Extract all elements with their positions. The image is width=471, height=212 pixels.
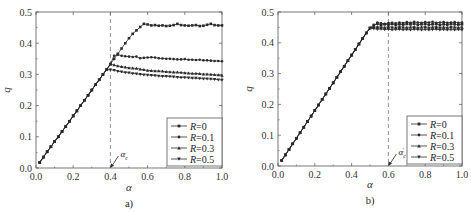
data-point (120, 54, 123, 57)
panel-label: a) (125, 198, 134, 210)
y-tick-label: 0.5 (262, 7, 275, 18)
data-point (180, 58, 183, 61)
data-point (380, 22, 383, 25)
legend-label: R=0.3 (189, 143, 214, 154)
legend-label-var: R (429, 141, 436, 152)
x-tick-label: 0.2 (67, 171, 80, 182)
data-point (431, 21, 434, 24)
x-tick-label: 0.6 (382, 169, 395, 180)
data-point (184, 24, 187, 27)
data-point (157, 57, 160, 60)
panel-label: b) (366, 195, 375, 207)
annotation-arrow (390, 154, 397, 164)
annotation-subscript: c (125, 155, 128, 161)
data-point (402, 22, 405, 25)
data-point (172, 24, 175, 27)
data-point (165, 58, 168, 61)
y-tick-label: 0.3 (262, 68, 275, 79)
data-point (187, 58, 190, 61)
data-point (424, 21, 427, 24)
data-point (198, 58, 201, 61)
data-point (376, 21, 379, 24)
data-point (428, 21, 431, 24)
data-point (139, 26, 142, 29)
data-point (169, 58, 172, 61)
x-tick-label: 0.4 (345, 169, 358, 180)
data-point (131, 33, 134, 36)
data-point (431, 23, 434, 26)
data-point (120, 47, 123, 50)
data-point (217, 60, 220, 63)
data-point (124, 42, 127, 45)
annotation-subscript: c (403, 153, 406, 159)
legend-label-value: =0 (436, 119, 447, 130)
legend-label: R=0 (189, 121, 207, 132)
data-point (157, 24, 160, 27)
data-point (135, 55, 138, 58)
legend-label: R=0.3 (429, 141, 454, 152)
legend-label-var: R (429, 119, 436, 130)
data-point (391, 21, 394, 24)
chart-panel-a: 0.00.20.40.60.81.00.00.10.20.30.40.5αqa)… (0, 7, 228, 211)
x-axis-label: α (367, 178, 373, 190)
data-point (154, 56, 157, 59)
legend: R=0R=0.1R=0.3R=0.5 (167, 118, 222, 166)
data-point (217, 24, 220, 27)
data-point (202, 59, 205, 62)
data-point (169, 24, 172, 27)
legend-marker-icon (178, 125, 181, 128)
data-point (446, 21, 449, 24)
data-point (409, 21, 412, 24)
data-point (406, 21, 409, 24)
data-point (435, 21, 438, 24)
legend-label-var: R (189, 121, 196, 132)
annotation-arrow (112, 156, 119, 166)
data-point (221, 24, 224, 27)
legend-label-value: =0 (196, 121, 207, 132)
y-tick-label: 0.4 (262, 37, 275, 48)
x-tick-label: 0.8 (419, 169, 432, 180)
data-point (202, 24, 205, 27)
data-point (398, 21, 401, 24)
legend-marker-icon (418, 123, 421, 126)
chart-panel-b: 0.00.20.40.60.81.00.00.10.20.30.40.5αqb)… (242, 7, 468, 208)
legend-label-var: R (429, 152, 436, 163)
y-tick-label: 0.2 (262, 99, 275, 110)
data-point (117, 53, 120, 56)
y-axis-label: q (242, 86, 254, 92)
y-axis-label: q (0, 87, 12, 93)
x-tick-label: 0.8 (179, 171, 192, 182)
y-tick-label: 0.0 (20, 163, 33, 174)
legend: R=0R=0.1R=0.3R=0.5 (407, 116, 462, 164)
data-point (213, 60, 216, 63)
x-tick-label: 1.0 (456, 169, 469, 180)
legend-label-value: =0.3 (436, 141, 454, 152)
data-point (146, 56, 149, 59)
legend-label-var: R (189, 154, 196, 165)
legend-label-value: =0.1 (436, 130, 454, 141)
data-point (191, 24, 194, 27)
data-point (387, 22, 390, 25)
data-point (184, 58, 187, 61)
data-point (176, 58, 179, 61)
y-tick-label: 0.1 (262, 130, 275, 141)
data-point (461, 21, 464, 24)
legend-marker-icon (178, 136, 181, 139)
data-point (191, 58, 194, 61)
legend-label: R=0.1 (429, 130, 454, 141)
data-point (172, 58, 175, 61)
data-point (128, 55, 131, 58)
data-point (150, 56, 153, 59)
data-point (206, 59, 209, 62)
data-point (146, 23, 149, 26)
data-point (165, 25, 168, 28)
data-point (206, 23, 209, 26)
data-point (113, 54, 116, 57)
legend-marker-icon (418, 134, 421, 137)
legend-label-var: R (189, 132, 196, 143)
data-point (394, 22, 397, 25)
data-point (195, 59, 198, 62)
data-point (187, 24, 190, 27)
y-tick-label: 0.3 (20, 69, 33, 80)
data-point (420, 21, 423, 24)
